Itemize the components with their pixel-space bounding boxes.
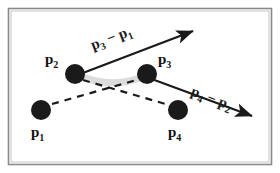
point-dot-p3	[137, 64, 157, 84]
point-dot-p1	[31, 100, 51, 120]
figure-background	[0, 0, 280, 173]
point-dot-p2	[65, 64, 85, 84]
vector-diagram-figure: p1 p2 p3 p4 p3 − p1 p4 − p2	[0, 0, 280, 173]
point-dot-p4	[168, 100, 188, 120]
diagram-canvas: p1 p2 p3 p4 p3 − p1 p4 − p2	[0, 0, 280, 173]
